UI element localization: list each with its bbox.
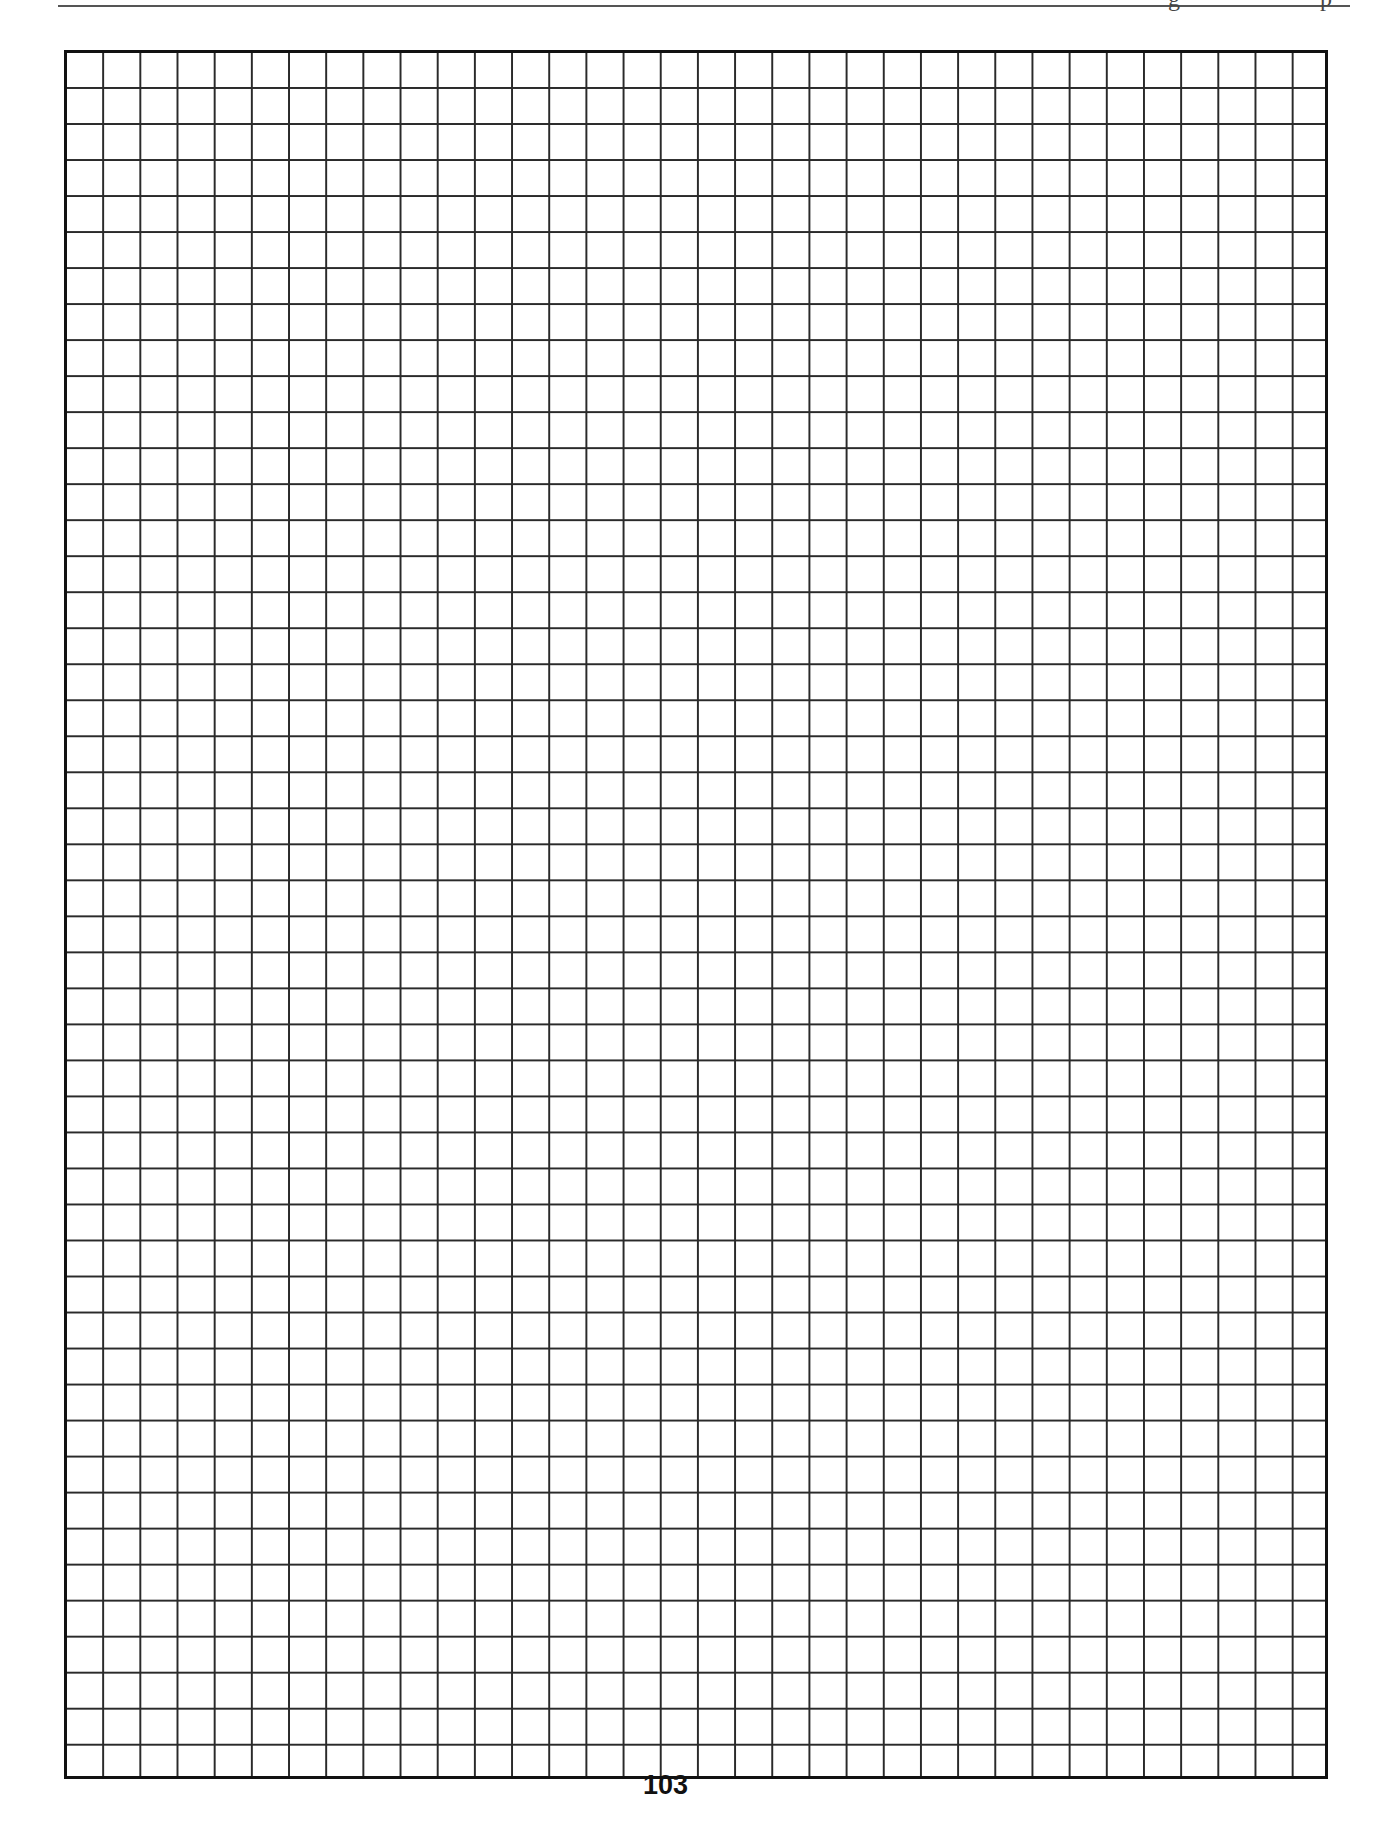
page-number: 103 (643, 1772, 688, 1799)
header-rule (58, 5, 1350, 7)
graph-paper-grid (64, 50, 1328, 1779)
header-text-fragment: p (1320, 0, 1332, 10)
header-text-fragment: g (1168, 0, 1180, 10)
